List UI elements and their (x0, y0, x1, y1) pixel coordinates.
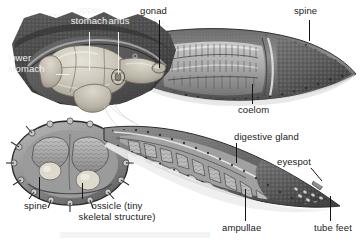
leader-lower-stomach (56, 74, 70, 75)
leader-ossicle (82, 183, 83, 199)
label-spine-top: spine (294, 5, 317, 16)
leader-gonad (159, 20, 160, 68)
label-eyespot: eyespot (277, 156, 311, 167)
label-gonad: gonad (140, 5, 167, 16)
label-coelom: coelom (238, 104, 269, 115)
label-ampullae: ampullae (222, 222, 261, 233)
leader-digestive-gland (236, 143, 237, 163)
label-tube-feet: tube feet (314, 222, 352, 233)
leader-spine-top (309, 20, 310, 41)
label-lower-stomach: lowerstomach (8, 52, 45, 74)
label-spine-lower: spine (24, 200, 47, 211)
leader-upper-stomach (89, 32, 90, 71)
leader-anus (118, 32, 119, 74)
label-ossicle: ossicle (tinyskeletal structure) (64, 200, 170, 222)
leader-tube-feet (330, 196, 331, 221)
leader-spine-lower (39, 177, 40, 199)
label-anus: anus (102, 15, 136, 26)
label-digestive-gland: digestive gland (234, 131, 299, 142)
leader-ampullae (245, 189, 246, 221)
leader-coelom (252, 84, 253, 104)
sea-star-anatomy-figure: upperstomach anus gonad spine lowerstoma… (0, 0, 364, 243)
